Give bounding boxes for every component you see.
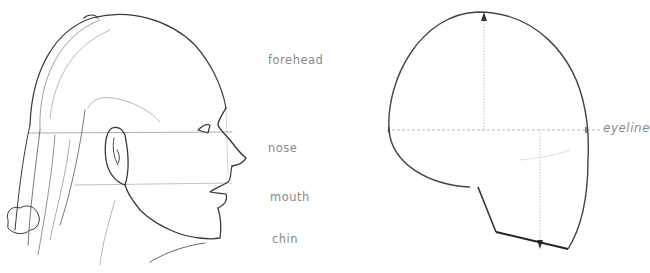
label-mouth: mouth <box>270 190 310 204</box>
label-eyeline: eyeline <box>603 121 650 135</box>
label-chin: chin <box>272 232 298 246</box>
arrow-up-icon <box>481 12 487 21</box>
head-shape-diagram <box>387 12 600 249</box>
profile-sketch <box>7 14 246 265</box>
label-nose: nose <box>268 141 297 155</box>
label-forehead: forehead <box>268 53 323 67</box>
